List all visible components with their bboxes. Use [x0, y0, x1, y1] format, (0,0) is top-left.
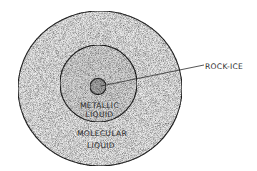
rock-ice-core — [90, 79, 106, 95]
planet-interior-diagram: ROCK-ICE METALLIC LIQUID MOLECULAR LIQUI… — [0, 0, 257, 171]
metallic-liquid-label-line2: LIQUID — [86, 110, 114, 119]
metallic-liquid-label-line1: METALLIC — [80, 101, 119, 110]
molecular-liquid-label-line1: MOLECULAR — [77, 129, 127, 138]
molecular-liquid-label-line2: LIQUID — [87, 141, 115, 150]
rock-ice-label: ROCK-ICE — [205, 62, 243, 71]
